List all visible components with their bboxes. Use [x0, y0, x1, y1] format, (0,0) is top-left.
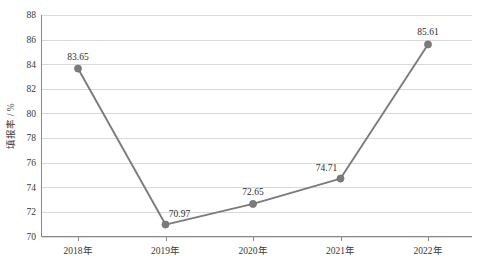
y-tick-label: 84 [27, 60, 37, 70]
data-point-label: 85.61 [417, 27, 439, 37]
y-tick-label: 78 [27, 133, 37, 143]
y-tick-label: 82 [27, 84, 37, 94]
data-point-marker [249, 200, 256, 207]
data-point-marker [337, 175, 344, 182]
data-point-label: 74.71 [316, 163, 338, 173]
y-tick-label: 74 [27, 183, 37, 193]
x-tick-label: 2022年 [414, 245, 443, 256]
y-tick-label: 88 [27, 10, 37, 20]
y-tick-label: 80 [27, 109, 37, 119]
data-point-marker [424, 41, 431, 48]
x-tick-label: 2020年 [239, 245, 268, 256]
data-point-label: 70.97 [169, 209, 191, 219]
data-point-marker [162, 221, 169, 228]
y-tick-label: 76 [27, 158, 37, 168]
data-point-label: 72.65 [242, 187, 264, 197]
y-tick-label: 72 [27, 207, 37, 217]
y-axis-title: 填报率 / % [5, 103, 16, 148]
data-point-label: 83.65 [67, 52, 89, 62]
x-tick-label: 2021年 [326, 245, 355, 256]
y-tick-label: 70 [27, 232, 37, 242]
line-chart: 70727476788082848688 2018年2019年2020年2021… [0, 0, 486, 268]
y-tick-label: 86 [27, 35, 37, 45]
x-tick-label: 2019年 [151, 245, 180, 256]
data-point-marker [74, 65, 81, 72]
x-tick-label: 2018年 [64, 245, 93, 256]
chart-container: 70727476788082848688 2018年2019年2020年2021… [0, 0, 486, 268]
